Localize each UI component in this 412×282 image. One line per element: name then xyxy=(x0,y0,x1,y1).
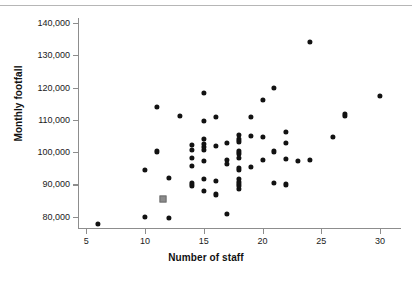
data-point xyxy=(213,143,218,148)
data-point xyxy=(248,114,253,119)
data-point xyxy=(283,140,288,145)
x-tick-mark xyxy=(204,229,205,234)
data-point xyxy=(154,104,159,109)
x-tick-mark xyxy=(145,229,146,234)
x-axis-line xyxy=(78,228,401,229)
data-point xyxy=(272,181,277,186)
data-point xyxy=(272,86,277,91)
x-tick-mark xyxy=(321,229,322,234)
data-point xyxy=(142,167,147,172)
data-point xyxy=(166,175,171,180)
data-point xyxy=(201,118,206,123)
data-point xyxy=(283,156,288,161)
x-tick-label: 20 xyxy=(248,236,278,246)
data-point xyxy=(201,188,206,193)
data-point xyxy=(178,114,183,119)
data-point xyxy=(248,133,253,138)
data-point xyxy=(201,90,206,95)
x-axis-title: Number of staff xyxy=(0,252,412,263)
x-tick-label: 5 xyxy=(71,236,101,246)
data-point xyxy=(201,159,206,164)
data-point xyxy=(142,215,147,220)
data-point xyxy=(260,157,265,162)
data-point xyxy=(189,147,194,152)
data-point xyxy=(295,158,300,163)
data-point xyxy=(189,155,194,160)
data-point xyxy=(283,182,288,187)
scatter-plot-figure: 80,00090,000100,000110,000120,000130,000… xyxy=(0,0,412,282)
x-tick-mark xyxy=(86,229,87,234)
data-point xyxy=(377,93,382,98)
data-point xyxy=(307,40,312,45)
data-point xyxy=(272,149,277,154)
data-point xyxy=(95,221,100,226)
data-point xyxy=(201,137,206,142)
data-point xyxy=(330,134,335,139)
data-point xyxy=(201,176,206,181)
data-point xyxy=(260,97,265,102)
data-point xyxy=(307,157,312,162)
data-point xyxy=(225,212,230,217)
y-tick-label: 140,000 xyxy=(8,18,70,28)
x-tick-label: 25 xyxy=(306,236,336,246)
x-tick-label: 10 xyxy=(130,236,160,246)
data-point xyxy=(260,134,265,139)
data-point-highlight xyxy=(159,195,166,202)
x-tick-mark xyxy=(380,229,381,234)
x-tick-label: 30 xyxy=(365,236,395,246)
data-point xyxy=(213,192,218,197)
data-point xyxy=(213,114,218,119)
data-points-layer xyxy=(78,18,400,228)
x-tick-mark xyxy=(263,229,264,234)
data-point xyxy=(166,215,171,220)
data-point xyxy=(213,178,218,183)
y-tick-label: 90,000 xyxy=(8,179,70,189)
data-point xyxy=(283,129,288,134)
data-point xyxy=(154,149,159,154)
y-axis-title: Monthly footfall xyxy=(13,34,24,174)
data-point xyxy=(225,140,230,145)
top-divider-rule xyxy=(0,5,412,6)
data-point xyxy=(189,163,194,168)
x-tick-label: 15 xyxy=(189,236,219,246)
y-tick-label: 80,000 xyxy=(8,212,70,222)
data-point xyxy=(248,164,253,169)
